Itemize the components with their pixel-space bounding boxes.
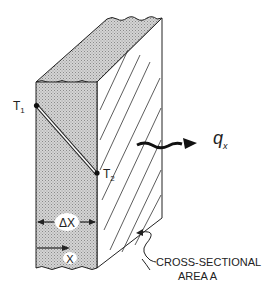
heat-flux-label: qx bbox=[213, 128, 228, 151]
slab-front-face bbox=[36, 82, 97, 270]
x-axis-label: X bbox=[66, 253, 74, 265]
area-label-line2: AREA A bbox=[178, 270, 218, 282]
thickness-label: ΔX bbox=[59, 216, 75, 230]
area-label-line1: CROSS-SECTIONAL bbox=[156, 256, 261, 268]
t2-point bbox=[94, 170, 99, 175]
t1-point bbox=[34, 103, 39, 108]
heat-flux-arrowhead-icon bbox=[183, 138, 197, 149]
t1-label: T1 bbox=[13, 99, 25, 115]
area-leader-line bbox=[142, 232, 156, 262]
slab-illustration: T1 T2 ΔX X qx CROSS-SECTIONAL AREA A bbox=[0, 0, 275, 297]
heat-conduction-diagram: T1 T2 ΔX X qx CROSS-SECTIONAL AREA A bbox=[0, 0, 275, 297]
